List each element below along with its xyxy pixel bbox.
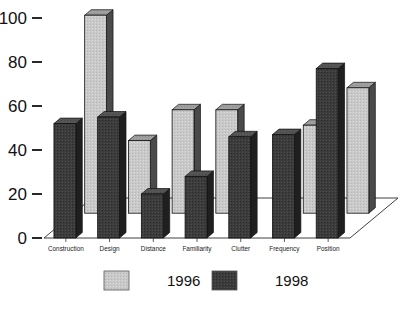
bar-1998-clutter xyxy=(229,131,257,238)
chart-container: 020406080100 ConstructionDesignDistanceF… xyxy=(0,0,415,311)
x-axis-label-clutter: Clutter xyxy=(231,245,251,252)
legend-label: 1996 xyxy=(167,272,200,289)
x-axis-label-design: Design xyxy=(100,245,120,253)
bar-1998-position xyxy=(316,63,344,238)
legend-swatch xyxy=(212,271,237,290)
y-axis-tick-label: 60 xyxy=(8,97,27,116)
y-axis-tick-label: 80 xyxy=(8,53,27,72)
bar-1998-design xyxy=(98,112,126,239)
x-axis-label-familiarity: Familiarity xyxy=(182,245,212,253)
bar-1998-construction xyxy=(54,118,82,238)
x-axis-label-construction: Construction xyxy=(48,245,84,252)
legend-label: 1998 xyxy=(275,272,308,289)
y-axis-tick-label: 100 xyxy=(0,9,27,28)
bar-1998-frequency xyxy=(273,129,301,238)
y-axis-tick-label: 40 xyxy=(8,141,27,160)
legend-swatch xyxy=(104,271,129,290)
bar-1998-distance xyxy=(141,189,169,239)
bar-1998-familiarity xyxy=(185,171,213,238)
x-axis-label-distance: Distance xyxy=(141,245,166,252)
bar-chart-3d: 020406080100 ConstructionDesignDistanceF… xyxy=(0,0,415,311)
y-axis-tick-label: 20 xyxy=(8,185,27,204)
bar-1996-position xyxy=(347,82,375,213)
x-axis-label-frequency: Frequency xyxy=(269,245,300,253)
y-axis-tick-label: 0 xyxy=(18,229,27,248)
x-axis-label-position: Position xyxy=(317,245,340,252)
